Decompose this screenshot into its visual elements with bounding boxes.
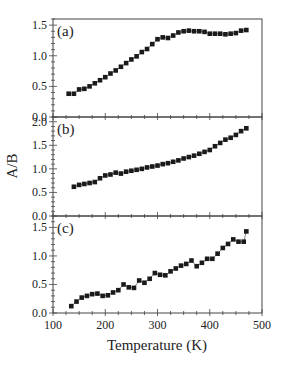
data-point — [98, 176, 103, 181]
data-point — [223, 32, 228, 37]
data-point — [228, 31, 233, 36]
y-tick-label: 0.5 — [32, 277, 47, 291]
x-tick-label: 100 — [44, 318, 62, 332]
data-point — [153, 271, 158, 276]
data-point — [223, 137, 228, 142]
data-point — [215, 251, 220, 256]
data-point — [202, 150, 207, 155]
data-point — [79, 295, 84, 300]
data-point — [134, 54, 139, 59]
data-point — [147, 276, 152, 281]
data-point — [113, 68, 118, 73]
data-point — [218, 31, 223, 36]
data-point — [106, 293, 111, 298]
data-point — [116, 288, 121, 293]
data-point — [72, 184, 77, 189]
y-tick-label: 1.0 — [32, 249, 47, 263]
data-point — [150, 42, 155, 47]
data-point — [66, 91, 71, 96]
data-point — [234, 31, 239, 36]
x-tick-label: 500 — [253, 318, 271, 332]
y-tick-label: 1.5 — [32, 138, 47, 152]
data-point — [155, 163, 160, 168]
data-point — [173, 266, 178, 271]
data-point — [69, 304, 74, 309]
data-point — [197, 29, 202, 34]
data-point — [241, 239, 246, 244]
data-point — [90, 292, 95, 297]
data-point — [210, 256, 215, 261]
data-point — [150, 164, 155, 169]
data-point — [181, 29, 186, 34]
y-tick-label: 1.0 — [32, 162, 47, 176]
data-point — [98, 78, 103, 83]
data-point — [121, 282, 126, 287]
data-point — [213, 31, 218, 36]
data-point — [207, 148, 212, 153]
panel-c: 0.00.51.01.5(c) — [32, 216, 262, 320]
data-point — [111, 290, 116, 295]
data-point — [200, 260, 205, 265]
x-tick-label: 300 — [149, 318, 167, 332]
data-point — [108, 172, 113, 177]
data-point — [124, 169, 129, 174]
data-point — [194, 264, 199, 269]
data-point — [155, 37, 160, 42]
data-point — [176, 158, 181, 163]
data-point — [87, 181, 92, 186]
x-axis-tick-labels: 100200300400500 — [44, 318, 271, 332]
panel-b: 0.00.51.01.52.0(b) — [32, 115, 262, 223]
data-point — [226, 242, 231, 247]
data-point — [132, 286, 137, 291]
data-point — [140, 50, 145, 55]
data-point — [181, 156, 186, 161]
data-point — [166, 161, 171, 166]
x-axis-label: Temperature (K) — [107, 337, 207, 354]
data-point — [244, 126, 249, 131]
data-point — [197, 151, 202, 156]
data-point — [134, 168, 139, 173]
y-tick-label: 1.5 — [32, 220, 47, 234]
data-point — [124, 61, 129, 66]
y-tick-label: 0.5 — [32, 185, 47, 199]
data-point — [192, 29, 197, 34]
data-point — [228, 135, 233, 140]
data-point — [236, 239, 241, 244]
data-point — [77, 183, 82, 188]
data-point — [145, 165, 150, 170]
data-point — [166, 36, 171, 41]
data-point — [119, 171, 124, 176]
y-axis-label: A/B — [4, 153, 20, 178]
data-point — [108, 71, 113, 76]
data-point — [213, 144, 218, 149]
x-tick-label: 400 — [201, 318, 219, 332]
data-point — [77, 87, 82, 92]
data-point — [158, 272, 163, 277]
data-point — [129, 168, 134, 173]
data-point — [207, 31, 212, 36]
y-tick-label: 2.0 — [32, 115, 47, 129]
panel-a: 0.00.51.01.5(a) — [32, 18, 262, 124]
data-point — [163, 273, 168, 278]
panel-label: (b) — [57, 121, 75, 138]
data-point — [85, 294, 90, 299]
data-point — [87, 84, 92, 89]
data-point — [129, 57, 134, 62]
data-point — [189, 258, 194, 263]
data-point — [184, 262, 189, 267]
data-point — [205, 256, 210, 261]
data-point — [244, 229, 249, 234]
data-point — [187, 155, 192, 160]
data-point — [82, 182, 87, 187]
x-tick-label: 200 — [96, 318, 114, 332]
y-tick-label: 1.5 — [32, 18, 47, 32]
data-point — [95, 291, 100, 296]
data-point — [244, 28, 249, 33]
data-point — [187, 28, 192, 33]
y-tick-label: 0.5 — [32, 79, 47, 93]
data-point — [119, 64, 124, 69]
data-point — [160, 35, 165, 40]
data-point — [168, 269, 173, 274]
data-point — [192, 153, 197, 158]
data-point — [171, 159, 176, 164]
